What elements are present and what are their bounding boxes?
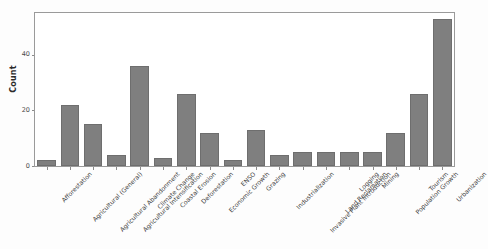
bar bbox=[270, 155, 289, 166]
x-axis-tick-mark bbox=[70, 167, 71, 170]
x-axis-tick-mark bbox=[186, 167, 187, 170]
x-axis-tick-mark bbox=[326, 167, 327, 170]
x-axis-tick-mark bbox=[93, 167, 94, 170]
x-axis-tick-mark bbox=[442, 167, 443, 170]
bar bbox=[37, 160, 56, 166]
bar bbox=[177, 94, 196, 166]
x-axis-tick-mark bbox=[419, 167, 420, 170]
bar bbox=[317, 152, 336, 166]
y-axis-tick-mark bbox=[32, 55, 35, 56]
y-axis-tick-labels: 02040 bbox=[14, 0, 30, 249]
x-axis-tick-label: Urbanization bbox=[456, 171, 488, 203]
x-axis-tick-mark bbox=[279, 167, 280, 170]
y-axis-tick-label: 40 bbox=[14, 51, 30, 58]
bar bbox=[107, 155, 126, 166]
x-axis-tick-mark bbox=[140, 167, 141, 170]
bar bbox=[200, 133, 219, 166]
x-axis-tick-mark bbox=[47, 167, 48, 170]
bar bbox=[84, 124, 103, 166]
x-axis-tick-mark bbox=[396, 167, 397, 170]
y-axis-tick-mark bbox=[32, 110, 35, 111]
x-axis-tick-label: Industrialization bbox=[296, 171, 336, 211]
x-axis-tick-mark bbox=[116, 167, 117, 170]
y-axis-tick-label: 0 bbox=[14, 163, 30, 170]
x-axis-tick-mark bbox=[210, 167, 211, 170]
x-axis-tick-mark bbox=[233, 167, 234, 170]
x-axis-tick-mark bbox=[303, 167, 304, 170]
bar bbox=[293, 152, 312, 166]
bar bbox=[154, 158, 173, 166]
y-axis-tick-mark bbox=[32, 166, 35, 167]
bar bbox=[340, 152, 359, 166]
x-axis-tick-mark bbox=[163, 167, 164, 170]
bar bbox=[386, 133, 405, 166]
x-axis-tick-mark bbox=[349, 167, 350, 170]
bar bbox=[410, 94, 429, 166]
x-axis-tick-mark bbox=[373, 167, 374, 170]
bar-series bbox=[35, 13, 454, 166]
bar bbox=[247, 130, 266, 166]
bar bbox=[363, 152, 382, 166]
bar bbox=[61, 105, 80, 166]
x-axis-tick-mark bbox=[256, 167, 257, 170]
x-axis-tick-label: Afforestation bbox=[60, 171, 93, 204]
bar bbox=[433, 19, 452, 166]
y-axis-tick-label: 20 bbox=[14, 107, 30, 114]
bar bbox=[130, 66, 149, 166]
bar bbox=[224, 160, 243, 166]
